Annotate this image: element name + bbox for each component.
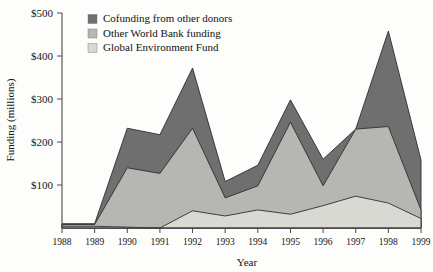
legend-label-1: Other World Bank funding: [103, 27, 221, 39]
x-tick-label: 1993: [216, 237, 235, 247]
y-axis-title: Funding (millions): [4, 78, 17, 161]
x-tick-label: 1996: [314, 237, 333, 247]
y-tick-label: $100: [31, 179, 54, 191]
x-tick-label: 1997: [346, 237, 365, 247]
x-tick-label: 1990: [118, 237, 137, 247]
chart-legend: Cofunding from other donorsOther World B…: [88, 12, 232, 53]
chart-container: $100$200$300$400$500 1988198919901991199…: [0, 0, 433, 272]
x-tick-label: 1992: [183, 237, 202, 247]
y-tick-label: $500: [31, 7, 54, 19]
x-axis-title: Year: [237, 256, 258, 268]
legend-swatch-2: [88, 44, 97, 53]
legend-label-2: Global Environment Fund: [103, 41, 219, 53]
y-tick-label: $300: [31, 93, 54, 105]
stacked-area-chart: $100$200$300$400$500 1988198919901991199…: [0, 0, 433, 272]
legend-label-0: Cofunding from other donors: [103, 12, 232, 24]
x-tick-label: 1995: [281, 237, 300, 247]
y-tick-label: $200: [31, 136, 54, 148]
legend-swatch-0: [88, 15, 97, 24]
legend-swatch-1: [88, 29, 97, 38]
x-tick-label: 1988: [53, 237, 72, 247]
x-tick-label: 1998: [379, 237, 398, 247]
x-tick-label: 1999: [412, 237, 431, 247]
x-tick-label: 1991: [150, 237, 169, 247]
y-tick-label: $400: [31, 50, 54, 62]
x-tick-label: 1989: [85, 237, 104, 247]
x-tick-label: 1994: [248, 237, 267, 247]
